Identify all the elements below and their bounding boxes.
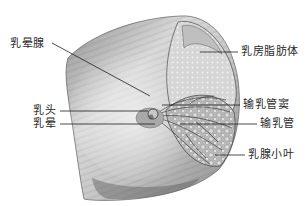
label-areolar-gland: 乳晕腺 xyxy=(10,38,45,50)
label-lactiferous-sinus: 输乳管窦 xyxy=(243,99,289,111)
label-areola: 乳晕 xyxy=(33,118,56,130)
label-mammary-lobule: 乳腺小叶 xyxy=(248,149,294,161)
label-adipose-body: 乳房脂肪体 xyxy=(241,46,299,58)
label-nipple: 乳头 xyxy=(33,105,56,117)
label-lactiferous-duct: 输乳管 xyxy=(260,118,295,130)
